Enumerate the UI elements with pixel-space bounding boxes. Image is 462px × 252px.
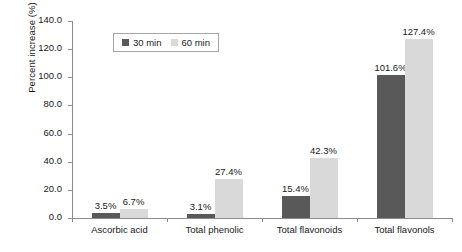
bar-value-label: 6.7% — [112, 196, 156, 207]
y-tick-label: 40.0 — [44, 155, 63, 166]
bar-value-label: 42.3% — [302, 145, 346, 156]
y-tick-label: 140.0 — [38, 14, 62, 25]
bar-value-label: 27.4% — [207, 166, 251, 177]
y-tick-label: 80.0 — [44, 98, 63, 109]
bar-chart: Percent increase (%) 0.020.040.060.080.0… — [0, 0, 462, 252]
x-axis-separator — [167, 218, 168, 222]
bar-1-0[interactable] — [187, 214, 215, 218]
legend-swatch-icon-1 — [171, 39, 178, 46]
legend-label-1: 60 min — [182, 37, 211, 48]
bar-0-1[interactable] — [120, 209, 148, 218]
y-tick-label: 0.0 — [49, 211, 62, 222]
x-category-label-2: Total flavonoids — [262, 224, 357, 235]
x-axis-end-tick — [452, 218, 453, 222]
chart-legend: 30 min 60 min — [113, 33, 219, 52]
legend-label-0: 30 min — [133, 37, 162, 48]
bar-3-0[interactable] — [377, 75, 405, 218]
y-tick-label: 60.0 — [44, 127, 63, 138]
x-category-label-3: Total flavonols — [357, 224, 452, 235]
y-tick-label: 100.0 — [38, 70, 62, 81]
x-axis-separator — [262, 218, 263, 222]
bar-3-1[interactable] — [405, 39, 433, 218]
legend-swatch-icon-0 — [122, 39, 129, 46]
x-category-label-1: Total phenolic — [167, 224, 262, 235]
bar-0-0[interactable] — [92, 213, 120, 218]
bar-2-1[interactable] — [310, 158, 338, 218]
legend-item-0[interactable]: 30 min — [122, 37, 162, 48]
legend-item-1[interactable]: 60 min — [171, 37, 211, 48]
y-axis-title: Percent increase (%) — [26, 0, 37, 131]
y-tick-label: 20.0 — [44, 183, 63, 194]
bar-value-label: 127.4% — [397, 26, 441, 37]
x-axis-separator — [357, 218, 358, 222]
x-axis-start-tick — [72, 218, 73, 222]
x-category-label-0: Ascorbic acid — [72, 224, 167, 235]
bar-1-1[interactable] — [215, 179, 243, 218]
bar-2-0[interactable] — [282, 196, 310, 218]
y-tick-label: 120.0 — [38, 42, 62, 53]
